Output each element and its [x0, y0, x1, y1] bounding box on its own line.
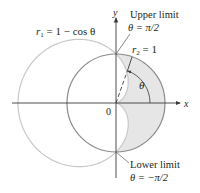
- lower-limit-leader: [116, 152, 129, 163]
- angle-label: θ: [139, 79, 145, 91]
- lower-limit-title: Lower limit: [130, 159, 180, 170]
- polar-region-diagram: r1 = 1 − cos θ r2 = 1 y x 0 Upper limit …: [0, 0, 200, 193]
- x-axis-label: x: [183, 98, 189, 109]
- r2-label: r2 = 1: [132, 43, 157, 57]
- r1-label: r1 = 1 − cos θ: [36, 25, 95, 39]
- upper-limit-title: Upper limit: [130, 9, 179, 20]
- y-axis-label: y: [112, 7, 118, 18]
- origin-label: 0: [106, 106, 111, 117]
- lower-limit-value: θ = −π/2: [130, 172, 169, 183]
- upper-limit-leader: [116, 34, 130, 54]
- upper-limit-value: θ = π/2: [128, 22, 160, 33]
